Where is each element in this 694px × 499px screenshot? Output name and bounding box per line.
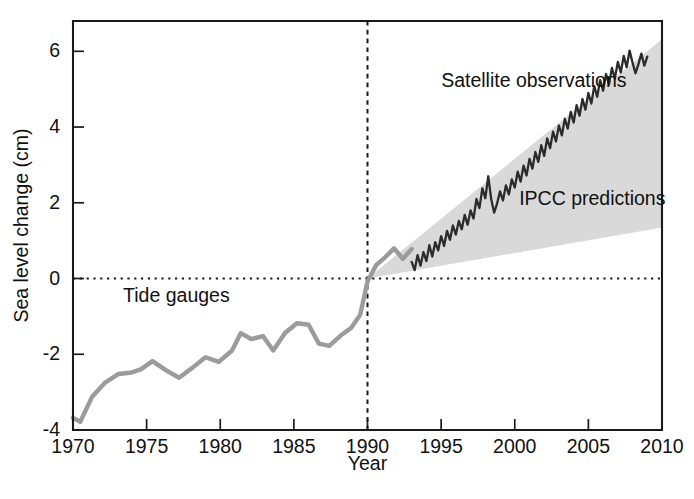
tide-gauges-annotation: Tide gauges	[123, 284, 230, 306]
y-axis-tick-label: 6	[49, 39, 60, 61]
tide-gauges-series-line	[73, 248, 412, 421]
y-axis-title: Sea level change (cm)	[10, 128, 32, 322]
y-axis-tick-label: -2	[43, 342, 60, 364]
x-axis-tick-label: 2010	[640, 435, 684, 457]
y-axis-tick-label: 4	[49, 115, 60, 137]
x-axis-tick-label: 1995	[419, 435, 463, 457]
x-axis-tick-label: 2005	[567, 435, 611, 457]
x-axis-tick-label: 2000	[493, 435, 537, 457]
x-axis-tick-label: 1970	[51, 435, 95, 457]
x-axis-tick-label: 1975	[125, 435, 169, 457]
x-axis-tick-label: 1980	[199, 435, 243, 457]
x-axis-tick-label: 1985	[272, 435, 316, 457]
sea-level-change-figure: 6420-2-419701975198019851990199520002005…	[0, 0, 694, 499]
ipcc-predictions-annotation: IPCC predictions	[519, 187, 666, 209]
y-axis-tick-label: 2	[49, 191, 60, 213]
satellite-observations-annotation: Satellite observations	[441, 69, 627, 91]
y-axis-tick-label: 0	[49, 267, 60, 289]
x-axis-title: Year	[348, 452, 388, 474]
sea-level-chart: 6420-2-419701975198019851990199520002005…	[0, 0, 694, 499]
